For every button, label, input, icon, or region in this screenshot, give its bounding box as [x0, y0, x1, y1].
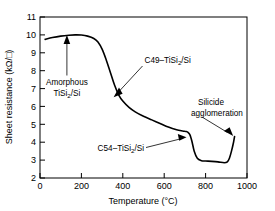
x-tick-label: 800 [198, 181, 213, 191]
x-tick-label: 1000 [237, 181, 257, 191]
annotation-amorphous-line1: Amorphous [46, 78, 88, 87]
y-tick-label: 5 [31, 120, 36, 130]
y-tick-label: 10 [26, 30, 36, 40]
y-axis-ticks [40, 17, 45, 178]
figure-container: 2 3 4 5 6 7 8 9 10 11 0 200 400 600 800 [0, 0, 275, 211]
y-tick-label: 9 [31, 48, 36, 58]
annotation-agglomeration-line1: Silicide [198, 98, 224, 107]
y-tick-label: 2 [31, 173, 36, 183]
annotation-c54-text: C54–TiSi2/Si [98, 144, 145, 154]
annotation-amorphous: Amorphous TiSi2/Si [46, 35, 88, 99]
y-axis-title: Sheet resistance (kΩ/□) [4, 50, 14, 145]
annot-text-post: /Si [71, 89, 81, 98]
annotation-amorphous-line2: TiSi2/Si [53, 89, 80, 99]
x-axis-ticks [40, 173, 247, 178]
x-tick-label: 400 [115, 181, 130, 191]
y-tick-label: 11 [27, 12, 36, 22]
annotation-c49: C49–TiSi2/Si [114, 56, 191, 97]
annotation-agglomeration: Silicide agglomeration [191, 98, 243, 136]
arrowhead-icon [224, 127, 233, 136]
annot-text-pre: C49–TiSi [145, 56, 179, 65]
x-tick-label: 600 [157, 181, 172, 191]
arrowhead-icon [178, 134, 187, 141]
y-tick-label: 8 [31, 66, 36, 76]
x-axis-title: Temperature (°C) [108, 196, 177, 206]
x-axis-tick-labels: 0 200 400 600 800 1000 [37, 181, 257, 191]
sheet-resistance-chart: 2 3 4 5 6 7 8 9 10 11 0 200 400 600 800 [0, 0, 275, 211]
annotation-c54: C54–TiSi2/Si [98, 134, 187, 154]
annot-text-post: /Si [181, 56, 191, 65]
y-tick-label: 6 [31, 102, 36, 112]
y-tick-label: 4 [31, 137, 36, 147]
annotation-c49-text: C49–TiSi2/Si [145, 56, 192, 66]
x-tick-label: 200 [74, 181, 89, 191]
y-tick-label: 7 [31, 84, 36, 94]
annot-text-pre: C54–TiSi [98, 144, 132, 153]
annot-text-pre: TiSi [53, 89, 67, 98]
y-axis-tick-labels: 2 3 4 5 6 7 8 9 10 11 [26, 12, 36, 183]
y-tick-label: 3 [31, 155, 36, 165]
x-tick-label: 0 [37, 181, 42, 191]
annot-text-post: /Si [134, 144, 144, 153]
annotation-agglomeration-line2: agglomeration [191, 109, 243, 118]
